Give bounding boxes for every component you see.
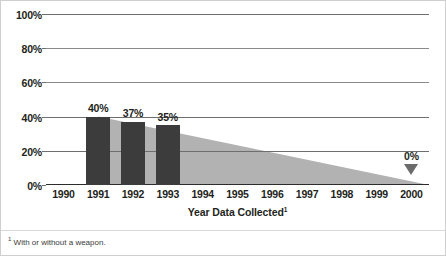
x-axis-tick-label-1995: 1995 bbox=[218, 189, 258, 200]
y-axis-tick-mark bbox=[42, 185, 46, 186]
gridline-80 bbox=[46, 48, 429, 49]
footnote: 1 With or without a weapon. bbox=[8, 239, 106, 248]
x-axis-tick-label-1996: 1996 bbox=[253, 189, 293, 200]
bar-1993[interactable] bbox=[156, 125, 180, 185]
x-axis-title-footnote-marker: 1 bbox=[284, 206, 288, 213]
y-axis-tick-label: 20% bbox=[2, 147, 42, 158]
gridline-60 bbox=[46, 82, 429, 83]
gridline-100 bbox=[46, 14, 429, 15]
bar-1991[interactable] bbox=[86, 117, 110, 185]
x-axis-tick-label-1993: 1993 bbox=[148, 189, 188, 200]
bar-1992[interactable] bbox=[121, 122, 145, 185]
y-axis-tick-label: 0% bbox=[2, 181, 42, 192]
x-axis-title-text: Year Data Collected bbox=[188, 206, 284, 218]
y-axis-tick-label: 100% bbox=[2, 10, 42, 21]
chart-figure: 100% 80% 60% 40% 20% 0% 40% 37% 35% bbox=[0, 0, 446, 256]
y-axis: 100% 80% 60% 40% 20% 0% bbox=[1, 14, 42, 185]
bar-value-label-1992: 37% bbox=[116, 108, 150, 119]
footnote-marker: 1 bbox=[8, 236, 11, 242]
x-axis-tick-label-1999: 1999 bbox=[357, 189, 397, 200]
x-axis-tick-label-2000: 2000 bbox=[392, 189, 432, 200]
x-axis-tick-label-1997: 1997 bbox=[287, 189, 327, 200]
end-marker-value-label: 0% bbox=[394, 151, 428, 162]
x-axis-tick-label-1998: 1998 bbox=[322, 189, 362, 200]
x-axis-tick-label-1994: 1994 bbox=[183, 189, 223, 200]
footnote-text: With or without a weapon. bbox=[14, 238, 106, 247]
footnote-divider bbox=[1, 230, 446, 231]
x-axis-tick-label-1991: 1991 bbox=[78, 189, 118, 200]
end-marker-2000[interactable]: 0% bbox=[394, 151, 428, 175]
bar-value-label-1993: 35% bbox=[151, 112, 185, 123]
down-triangle-marker-icon bbox=[404, 164, 418, 175]
x-axis-title: Year Data Collected1 bbox=[46, 207, 429, 218]
x-axis-tick-label-1992: 1992 bbox=[113, 189, 153, 200]
x-axis: 1990 1991 1992 1993 1994 1995 1996 1997 … bbox=[46, 189, 429, 205]
y-axis-tick-label: 80% bbox=[2, 44, 42, 55]
bar-value-label-1991: 40% bbox=[81, 103, 115, 114]
y-axis-tick-label: 40% bbox=[2, 113, 42, 124]
y-axis-tick-label: 60% bbox=[2, 78, 42, 89]
plot-area: 40% 37% 35% 0% bbox=[46, 14, 429, 185]
x-axis-tick-label-1990: 1990 bbox=[44, 189, 84, 200]
